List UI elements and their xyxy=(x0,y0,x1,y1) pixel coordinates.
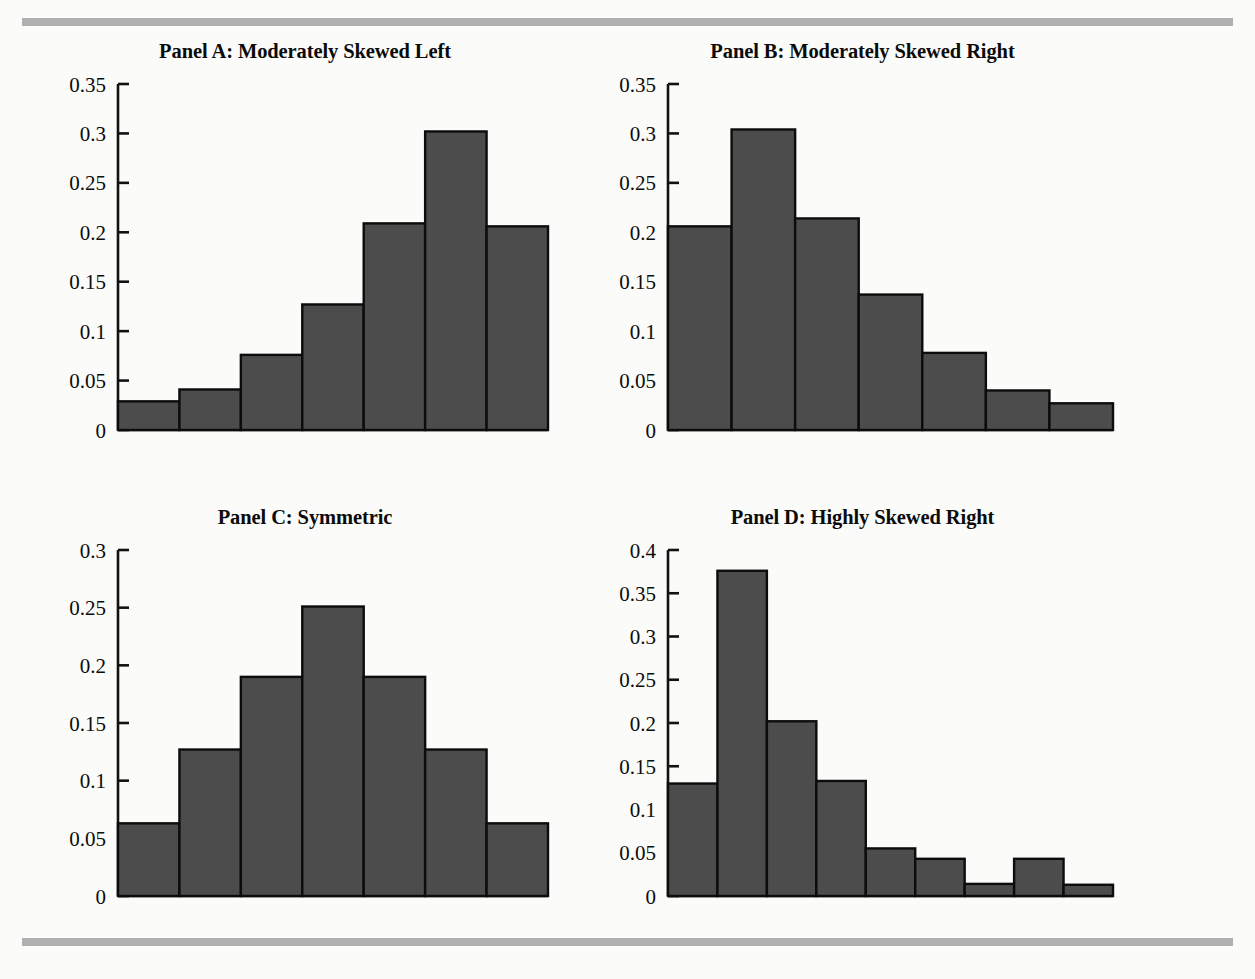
panel-a: Panel A: Moderately Skewed Left 00.050.1… xyxy=(40,40,570,460)
y-tick-label: 0.1 xyxy=(630,320,656,344)
histogram-bar xyxy=(302,607,363,896)
top-divider-rule xyxy=(22,18,1233,26)
histogram-bar xyxy=(986,390,1050,430)
panel-d-plot: 00.050.10.150.20.250.30.350.4 xyxy=(590,538,1135,928)
y-tick-label: 0.15 xyxy=(69,270,106,294)
histogram-bar xyxy=(915,859,964,896)
y-tick-label: 0.2 xyxy=(80,654,106,678)
panel-b-plot: 00.050.10.150.20.250.30.35 xyxy=(590,72,1135,462)
panel-c-plot: 00.050.10.150.20.250.3 xyxy=(40,538,570,928)
histogram-bar xyxy=(767,721,816,896)
y-tick-label: 0.1 xyxy=(630,798,656,822)
y-tick-label: 0.05 xyxy=(69,827,106,851)
histogram-bar xyxy=(668,226,732,430)
y-tick-label: 0.05 xyxy=(619,369,656,393)
page-header-artifact xyxy=(18,0,338,14)
panel-grid: Panel A: Moderately Skewed Left 00.050.1… xyxy=(0,34,1255,934)
y-tick-label: 0.35 xyxy=(69,73,106,97)
histogram-bar xyxy=(816,781,865,896)
histogram-bar xyxy=(241,355,302,430)
histogram-bar xyxy=(302,304,363,430)
bottom-divider-rule xyxy=(22,938,1233,946)
histogram-bar xyxy=(179,389,240,430)
panel-c: Panel C: Symmetric 00.050.10.150.20.250.… xyxy=(40,506,570,926)
histogram-bar xyxy=(425,750,486,896)
y-tick-label: 0.3 xyxy=(80,122,106,146)
panel-d-svg: 00.050.10.150.20.250.30.350.4 xyxy=(590,538,1135,928)
histogram-bar xyxy=(717,571,766,896)
y-tick-label: 0.35 xyxy=(619,73,656,97)
panel-a-plot: 00.050.10.150.20.250.30.35 xyxy=(40,72,570,462)
y-tick-label: 0.3 xyxy=(80,539,106,563)
panel-c-title: Panel C: Symmetric xyxy=(40,506,570,529)
histogram-bar xyxy=(118,401,179,430)
y-tick-label: 0.2 xyxy=(630,712,656,736)
panel-c-svg: 00.050.10.150.20.250.3 xyxy=(40,538,570,928)
histogram-bar xyxy=(965,884,1014,896)
y-tick-label: 0.25 xyxy=(619,171,656,195)
histogram-bar xyxy=(1014,859,1063,896)
figure-page: Panel A: Moderately Skewed Left 00.050.1… xyxy=(0,0,1255,979)
histogram-bar xyxy=(866,848,915,896)
y-tick-label: 0.05 xyxy=(619,841,656,865)
y-tick-label: 0.15 xyxy=(69,712,106,736)
histogram-bar xyxy=(668,784,717,896)
y-tick-label: 0.2 xyxy=(630,221,656,245)
y-tick-label: 0 xyxy=(646,885,657,909)
histogram-bar xyxy=(795,218,859,430)
histogram-bar xyxy=(732,129,796,430)
panel-a-title: Panel A: Moderately Skewed Left xyxy=(40,40,570,63)
histogram-bar xyxy=(1064,885,1113,896)
panel-a-svg: 00.050.10.150.20.250.30.35 xyxy=(40,72,570,462)
y-tick-label: 0.4 xyxy=(630,539,657,563)
y-tick-label: 0.15 xyxy=(619,755,656,779)
y-tick-label: 0.25 xyxy=(69,171,106,195)
histogram-bar xyxy=(364,223,425,430)
y-tick-label: 0.25 xyxy=(69,596,106,620)
histogram-bar xyxy=(179,750,240,896)
histogram-bar xyxy=(922,353,986,430)
y-tick-label: 0.1 xyxy=(80,769,106,793)
y-tick-label: 0 xyxy=(646,419,657,443)
y-tick-label: 0 xyxy=(96,885,107,909)
histogram-bar xyxy=(487,226,548,430)
histogram-bar xyxy=(364,677,425,896)
panel-d: Panel D: Highly Skewed Right 00.050.10.1… xyxy=(590,506,1135,926)
y-tick-label: 0.1 xyxy=(80,320,106,344)
panel-b-svg: 00.050.10.150.20.250.30.35 xyxy=(590,72,1135,462)
y-tick-label: 0.25 xyxy=(619,668,656,692)
histogram-bar xyxy=(425,131,486,430)
histogram-bar xyxy=(487,823,548,896)
panel-d-title: Panel D: Highly Skewed Right xyxy=(590,506,1135,529)
histogram-bar xyxy=(241,677,302,896)
panel-b-title: Panel B: Moderately Skewed Right xyxy=(590,40,1135,63)
histogram-bar xyxy=(859,295,923,430)
y-tick-label: 0.3 xyxy=(630,625,656,649)
y-tick-label: 0.3 xyxy=(630,122,656,146)
y-tick-label: 0 xyxy=(96,419,107,443)
histogram-bar xyxy=(118,823,179,896)
panel-b: Panel B: Moderately Skewed Right 00.050.… xyxy=(590,40,1135,460)
y-tick-label: 0.2 xyxy=(80,221,106,245)
y-tick-label: 0.05 xyxy=(69,369,106,393)
y-tick-label: 0.15 xyxy=(619,270,656,294)
y-tick-label: 0.35 xyxy=(619,582,656,606)
histogram-bar xyxy=(1049,403,1113,430)
